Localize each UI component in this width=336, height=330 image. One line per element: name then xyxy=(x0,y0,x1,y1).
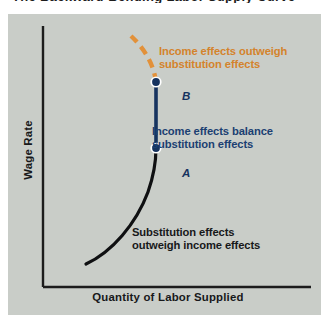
page-title: The Backward-Bending Labor Supply Curve xyxy=(12,0,312,3)
chart-panel: B A Income effects outweigh substitution… xyxy=(8,14,321,315)
point-b-marker xyxy=(152,78,160,86)
point-b-label: B xyxy=(182,90,190,102)
figure-container: The Backward-Bending Labor Supply Curve … xyxy=(0,0,336,330)
annotation-substitution-effects-outweigh: Substitution effects outweigh income eff… xyxy=(132,226,260,252)
supply-curve-income-segment xyxy=(131,36,156,82)
point-a-label: A xyxy=(182,167,190,179)
annotation-income-effects-outweigh: Income effects outweigh substitution eff… xyxy=(159,45,287,71)
x-axis-label: Quantity of Labor Supplied xyxy=(28,291,308,303)
annotation-income-effects-balance: Income effects balance substitution effe… xyxy=(152,125,273,151)
y-axis-label: Wage Rate xyxy=(22,110,34,190)
